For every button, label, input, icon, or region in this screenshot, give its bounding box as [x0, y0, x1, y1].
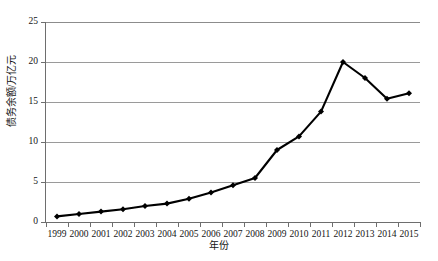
- series-polyline: [57, 62, 409, 216]
- y-axis-tick-label: 5: [16, 177, 38, 187]
- data-point-marker: [142, 203, 148, 209]
- data-point-marker: [230, 182, 236, 188]
- y-axis-tick-labels: 0510152025: [14, 0, 38, 261]
- y-axis-tick-label: 10: [16, 137, 38, 147]
- y-axis-tick-mark: [41, 102, 46, 103]
- data-point-marker: [76, 211, 82, 217]
- x-axis-line: [45, 222, 421, 223]
- x-axis-tick-mark: [68, 223, 69, 227]
- x-axis-tick-mark: [178, 223, 179, 227]
- data-point-marker: [164, 201, 170, 207]
- x-axis-tick-mark: [332, 223, 333, 227]
- x-axis-tick-mark: [46, 223, 47, 227]
- x-axis-tick-mark: [376, 223, 377, 227]
- data-point-marker: [54, 213, 60, 219]
- plot-area: [46, 22, 420, 222]
- x-axis-tick-mark: [134, 223, 135, 227]
- x-axis-tick-mark: [90, 223, 91, 227]
- chart-container: 债务余额/万亿元 0510152025 年份 19992000200120022…: [0, 0, 438, 261]
- x-axis-tick-mark: [398, 223, 399, 227]
- y-axis-tick-label: 25: [16, 17, 38, 27]
- x-axis-title: 年份: [0, 240, 438, 252]
- data-point-marker: [98, 209, 104, 215]
- y-axis-tick-mark: [41, 62, 46, 63]
- data-point-marker: [406, 90, 412, 96]
- x-axis-tick-mark: [244, 223, 245, 227]
- y-axis-tick-label: 0: [16, 217, 38, 227]
- x-axis-tick-mark: [156, 223, 157, 227]
- x-axis-tick-mark: [354, 223, 355, 227]
- y-axis-tick-label: 15: [16, 97, 38, 107]
- data-point-marker: [208, 189, 214, 195]
- x-axis-tick-mark: [222, 223, 223, 227]
- data-point-marker: [120, 206, 126, 212]
- y-axis-tick-mark: [41, 182, 46, 183]
- y-axis-tick-label: 20: [16, 57, 38, 67]
- x-axis-tick-mark: [200, 223, 201, 227]
- x-axis-tick-label: 2015: [394, 229, 424, 240]
- y-axis-tick-mark: [41, 142, 46, 143]
- x-axis-tick-mark: [266, 223, 267, 227]
- x-axis-tick-mark: [288, 223, 289, 227]
- x-axis-tick-mark: [420, 223, 421, 227]
- data-series-line: [46, 22, 420, 222]
- data-point-marker: [186, 196, 192, 202]
- y-axis-tick-mark: [41, 22, 46, 23]
- x-axis-tick-mark: [310, 223, 311, 227]
- x-axis-tick-mark: [112, 223, 113, 227]
